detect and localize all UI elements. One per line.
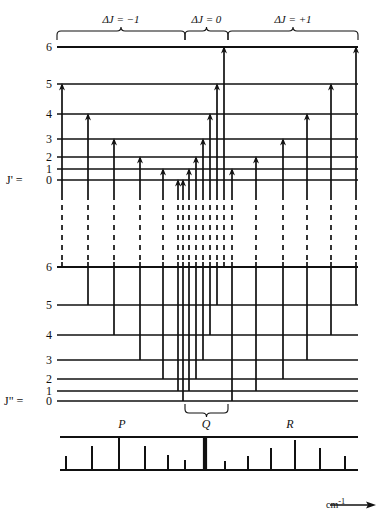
- r-branch-label: R: [230, 418, 350, 430]
- upper-level-label-4: 4: [36, 108, 52, 120]
- lower-state-axis-label: J" =: [4, 395, 23, 407]
- figure-root: ΔJ = −1 ΔJ = 0 ΔJ = +1 6 5 4 3 2 1 0 J' …: [0, 0, 384, 530]
- brace-q-branch-spectrum: [185, 404, 228, 417]
- upper-state-axis-label: J' =: [6, 174, 23, 186]
- lower-level-label-3: 3: [36, 354, 52, 366]
- upper-level-label-6: 6: [36, 41, 52, 53]
- lower-level-label-6: 6: [36, 261, 52, 273]
- lower-level-label-5: 5: [36, 299, 52, 311]
- upper-level-label-5: 5: [36, 78, 52, 90]
- delta-j-plus-one-label: ΔJ = +1: [233, 14, 353, 25]
- upper-level-label-0: 0: [36, 174, 52, 186]
- wavenumber-axis-label: cm-1: [326, 498, 345, 510]
- upper-level-label-3: 3: [36, 133, 52, 145]
- energy-level-diagram-canvas: [0, 0, 384, 530]
- lower-level-label-0: 0: [36, 395, 52, 407]
- brace-delta-j-minus-one: [57, 27, 185, 40]
- brace-delta-j-zero: [185, 27, 228, 40]
- wavenumber-unit-exponent: -1: [338, 497, 345, 506]
- lower-level-label-4: 4: [36, 329, 52, 341]
- wavenumber-unit-text: cm: [326, 499, 338, 510]
- brace-delta-j-plus-one: [228, 27, 358, 40]
